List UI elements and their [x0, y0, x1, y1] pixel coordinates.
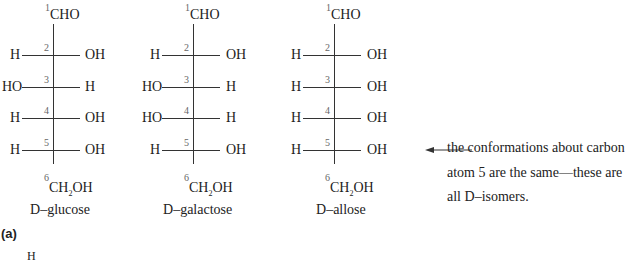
left-substituent: H	[291, 79, 301, 95]
left-substituent: H	[291, 110, 301, 126]
right-substituent: OH	[367, 110, 387, 126]
bond-line	[162, 87, 220, 88]
right-substituent: OH	[226, 142, 246, 158]
left-substituent: H	[291, 47, 301, 63]
left-substituent: H	[10, 47, 20, 63]
carbon-number-2: 2	[325, 42, 330, 53]
hydroxymethyl-group: CH2OH	[330, 180, 374, 198]
carbon-number-5: 5	[44, 137, 49, 148]
left-substituent: HO	[142, 110, 162, 126]
sugar-name-label: D–allose	[316, 202, 366, 218]
carbon-number-2: 2	[184, 42, 189, 53]
sugar-name-label: D–galactose	[163, 202, 232, 218]
right-substituent: OH	[226, 47, 246, 63]
left-substituent: H	[291, 142, 301, 158]
right-substituent: OH	[367, 79, 387, 95]
bond-line	[303, 118, 361, 119]
carbon-chain-line	[193, 24, 194, 164]
left-substituent: H	[10, 110, 20, 126]
left-substituent: HO	[2, 79, 22, 95]
bond-line	[22, 87, 80, 88]
left-substituent: H	[150, 142, 160, 158]
carbon-chain-line	[53, 24, 54, 164]
carbon-number-3: 3	[44, 74, 49, 85]
hydroxymethyl-group: CH2OH	[189, 180, 233, 198]
bond-line	[162, 55, 220, 56]
right-substituent: H	[85, 79, 95, 95]
right-substituent: OH	[367, 142, 387, 158]
carbon-number-3: 3	[325, 74, 330, 85]
hydroxymethyl-group: CH2OH	[49, 180, 93, 198]
left-substituent: H	[150, 47, 160, 63]
aldehyde-group: CHO	[190, 7, 220, 23]
carbon-number-4: 4	[184, 105, 189, 116]
left-substituent: HO	[142, 79, 162, 95]
carbon-number-4: 4	[44, 105, 49, 116]
carbon-number-3: 3	[184, 74, 189, 85]
carbon-number-5: 5	[184, 137, 189, 148]
right-substituent: OH	[85, 110, 105, 126]
right-substituent: H	[226, 110, 236, 126]
carbon-number-5: 5	[325, 137, 330, 148]
bond-line	[22, 150, 80, 151]
sugar-name-label: D–glucose	[30, 202, 90, 218]
bond-line	[22, 118, 80, 119]
bond-line	[162, 150, 220, 151]
annotation-line-1: the conformations about carbon	[447, 140, 625, 156]
bond-line	[162, 118, 220, 119]
aldehyde-group: CHO	[331, 7, 361, 23]
bond-line	[22, 55, 80, 56]
partial-next-structure-text: H	[27, 249, 36, 263]
bond-line	[303, 55, 361, 56]
left-substituent: H	[10, 142, 20, 158]
carbon-chain-line	[334, 24, 335, 164]
aldehyde-group: CHO	[50, 7, 80, 23]
bond-line	[303, 150, 361, 151]
right-substituent: OH	[85, 47, 105, 63]
panel-label: (a)	[1, 226, 17, 241]
right-substituent: OH	[367, 47, 387, 63]
carbon-number-4: 4	[325, 105, 330, 116]
right-substituent: OH	[85, 142, 105, 158]
annotation-line-3: all D–isomers.	[447, 189, 529, 205]
right-substituent: H	[226, 79, 236, 95]
bond-line	[303, 87, 361, 88]
annotation-line-2: atom 5 are the same—these are	[447, 165, 622, 181]
carbon-number-2: 2	[44, 42, 49, 53]
